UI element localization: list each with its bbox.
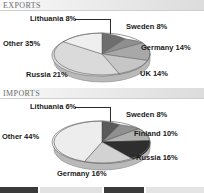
exports-label-germany: Germany 14% [141,43,191,52]
bottom-strip-segment [146,187,204,193]
imports-label-other: Other 44% [2,132,39,141]
exports-chart: Lithuania 8% Sweden 8% Germany 14% UK 14… [0,11,204,88]
imports-section-header: IMPORTS [0,88,204,99]
bottom-strip-segment [0,187,38,193]
exports-label-other: Other 35% [3,39,40,48]
exports-label-lithuania: Lithuania 8% [30,14,76,23]
imports-label-russia: Russia 16% [136,153,178,162]
exports-label-uk: UK 14% [140,69,168,78]
bottom-cutoff-strip [0,185,204,193]
exports-label-russia: Russia 21% [26,70,68,79]
imports-chart: Lithuania 6% Sweden 8% Finland 10% Russi… [0,99,204,181]
imports-label-sweden: Sweden 8% [126,110,167,119]
bottom-strip-segment [40,187,102,193]
exports-section-header: EXPORTS [0,0,204,11]
bottom-strip-segment [104,187,144,193]
imports-pie-svg [52,113,152,171]
trade-pie-charts-figure: EXPORTS [0,0,204,193]
imports-pie [52,113,152,171]
imports-label-germany: Germany 16% [57,169,107,178]
imports-label-lithuania: Lithuania 6% [30,102,76,111]
imports-label-finland: Finland 10% [134,129,178,138]
exports-label-sweden: Sweden 8% [126,22,167,31]
